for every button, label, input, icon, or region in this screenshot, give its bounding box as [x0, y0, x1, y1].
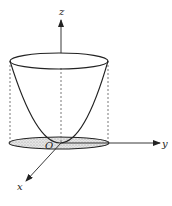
paraboloid-profile	[10, 61, 108, 143]
y-axis-label: y	[161, 138, 168, 149]
origin-label: O	[45, 140, 53, 151]
paraboloid-top-ellipse	[10, 53, 108, 69]
z-axis-label: z	[58, 6, 65, 17]
x-axis-label: x	[17, 181, 23, 192]
paraboloid-diagram: z y x O	[0, 0, 172, 206]
